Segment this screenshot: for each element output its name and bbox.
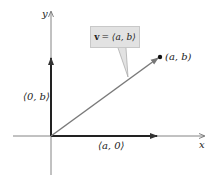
callout-pointer (118, 48, 128, 77)
horizontal-component-label: ⟨a, 0⟩ (98, 141, 124, 151)
point-a-b (158, 55, 162, 59)
vector-v-arrow (51, 58, 158, 136)
x-axis-label: x (199, 140, 205, 150)
callout-text: = ⟨a, b⟩ (101, 32, 135, 42)
y-axis-label: y (42, 9, 48, 19)
vector-callout-box: v = ⟨a, b⟩ (90, 26, 140, 48)
vertical-component-label: ⟨0, b⟩ (23, 92, 50, 102)
callout-bold-v: v (94, 32, 99, 42)
point-label: (a, b) (165, 52, 192, 62)
vector-diagram: v = ⟨a, b⟩ y x (a, b) ⟨0, b⟩ ⟨a, 0⟩ (0, 0, 214, 181)
